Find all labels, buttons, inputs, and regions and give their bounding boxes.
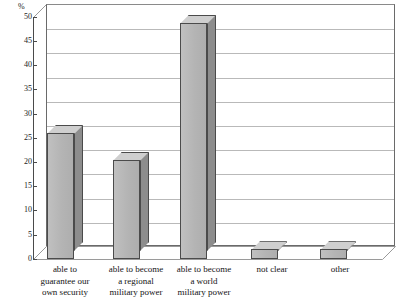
category-label-line: able to [26,264,104,276]
bar-front-face [180,23,207,259]
bar-not-clear [251,0,287,259]
category-label-line: own security [26,287,104,299]
bar-front-face [113,160,140,259]
bar-other [320,0,356,259]
category-label-line: a world [163,276,245,288]
bar-side-face [74,125,83,251]
category-label-line: military power [163,287,245,299]
category-label-able-to-guarantee-our-own-security: able to guarantee our own security [26,264,104,299]
bar-able-to-become-a-regional-military-power [113,0,149,259]
category-label-not-clear: not clear [240,264,304,276]
bar-front-face [320,249,347,259]
bar-side-face [140,152,149,251]
bar-able-to-guarantee-our-own-security [47,0,83,259]
bar-front-face [251,249,278,259]
category-label-line: other [310,264,370,276]
category-label-other: other [310,264,370,276]
category-label-line: able to become [163,264,245,276]
category-label-line: not clear [240,264,304,276]
bar-able-to-become-a-world-military-power [180,0,216,259]
bar-chart: % 50 45 40 35 30 25 20 15 10 5 [0,0,409,308]
category-label-able-to-become-a-world-military-power: able to become a world military power [163,264,245,299]
bar-front-face [47,133,74,259]
category-label-line: guarantee our [26,276,104,288]
bars-layer [0,0,409,308]
bar-side-face [207,15,216,251]
